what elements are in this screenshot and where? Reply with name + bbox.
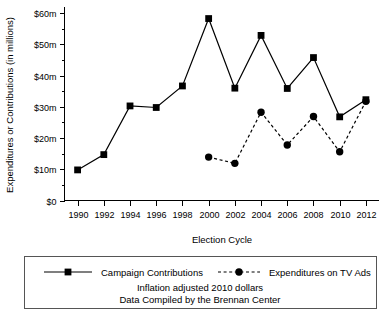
x-tick-label-2008: 2008 (303, 210, 323, 220)
data-point-campaign-contributions-2006 (284, 85, 291, 92)
y-axis-title-group: Expenditures or Contributions (in millio… (4, 17, 15, 193)
x-tick-label-1992: 1992 (94, 210, 114, 220)
y-axis-major-ticks (60, 14, 65, 202)
x-axis: 1990199219941996199820002002200420062008… (65, 201, 380, 246)
data-point-expenditures-on-tv-ads-2002 (231, 160, 238, 167)
x-axis-major-ticks (79, 201, 367, 206)
x-tick-label-2012: 2012 (356, 210, 376, 220)
chart-figure: Expenditures or Contributions (in millio… (0, 0, 384, 315)
legend-item-expenditures-tv-ads[interactable]: Expenditures on TV Ads (218, 267, 371, 278)
x-tick-label-1996: 1996 (146, 210, 166, 220)
y-tick-label-0: $0 (46, 197, 56, 207)
y-tick-label-40: $40m (34, 72, 57, 82)
y-tick-label-30: $30m (34, 103, 57, 113)
data-point-expenditures-on-tv-ads-2010 (336, 148, 343, 155)
caption-line-1: Inflation adjusted 2010 dollars (137, 282, 263, 293)
data-point-campaign-contributions-2010 (336, 113, 343, 120)
legend-marker-square (65, 269, 72, 276)
data-point-expenditures-on-tv-ads-2012 (362, 98, 369, 105)
legend-label-expenditures-tv-ads: Expenditures on TV Ads (269, 267, 371, 278)
data-point-campaign-contributions-2002 (231, 85, 238, 92)
legend-item-campaign-contributions[interactable]: Campaign Contributions (44, 267, 203, 278)
y-tick-label-50: $50m (34, 40, 57, 50)
data-point-expenditures-on-tv-ads-2004 (257, 108, 264, 115)
y-tick-label-20: $20m (34, 134, 57, 144)
data-point-campaign-contributions-2000 (205, 15, 212, 22)
x-tick-label-2000: 2000 (199, 210, 219, 220)
y-tick-label-10: $10m (34, 165, 57, 175)
y-axis: $0$10m$20m$30m$40m$50m$60m (34, 7, 65, 207)
x-tick-label-2006: 2006 (277, 210, 297, 220)
x-axis-title: Election Cycle (192, 234, 252, 245)
y-axis-tick-labels: $0$10m$20m$30m$40m$50m$60m (34, 9, 57, 207)
line-chart-svg: Expenditures or Contributions (in millio… (0, 0, 384, 315)
data-point-campaign-contributions-1994 (127, 103, 134, 110)
legend: Campaign Contributions Expenditures on T… (25, 257, 377, 309)
data-point-campaign-contributions-2004 (258, 32, 265, 39)
x-axis-tick-labels: 1990199219941996199820002002200420062008… (68, 210, 376, 220)
x-tick-label-2004: 2004 (251, 210, 271, 220)
series-campaign-contributions (74, 15, 369, 173)
data-point-expenditures-on-tv-ads-2000 (205, 153, 212, 160)
x-tick-label-1998: 1998 (172, 210, 192, 220)
data-point-campaign-contributions-1998 (179, 83, 186, 90)
data-point-campaign-contributions-1990 (74, 167, 81, 174)
x-tick-label-2002: 2002 (225, 210, 245, 220)
x-tick-label-1990: 1990 (68, 210, 88, 220)
series-line-campaign-contributions (78, 19, 366, 170)
series-expenditures-on-tv-ads (205, 98, 370, 168)
data-point-expenditures-on-tv-ads-2006 (284, 141, 291, 148)
caption-line-2: Data Compiled by the Brennan Center (119, 294, 280, 305)
legend-marker-circle (235, 268, 242, 275)
y-axis-title: Expenditures or Contributions (in millio… (4, 17, 15, 193)
data-point-expenditures-on-tv-ads-2008 (310, 113, 317, 120)
x-tick-label-1994: 1994 (120, 210, 140, 220)
data-point-campaign-contributions-2008 (310, 54, 317, 61)
legend-label-campaign-contributions: Campaign Contributions (101, 267, 203, 278)
y-tick-label-60: $60m (34, 9, 57, 19)
data-point-campaign-contributions-1996 (153, 104, 160, 111)
data-point-campaign-contributions-1992 (100, 151, 107, 158)
plot-series-group (74, 15, 369, 173)
x-tick-label-2010: 2010 (330, 210, 350, 220)
